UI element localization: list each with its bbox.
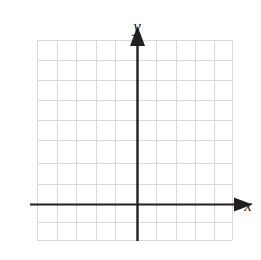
- y-axis-label: y: [131, 17, 141, 36]
- figure-background: [0, 0, 261, 260]
- coordinate-grid-figure: x y: [0, 0, 261, 260]
- graph-canvas: x y: [0, 0, 261, 260]
- x-axis-label: x: [243, 196, 252, 215]
